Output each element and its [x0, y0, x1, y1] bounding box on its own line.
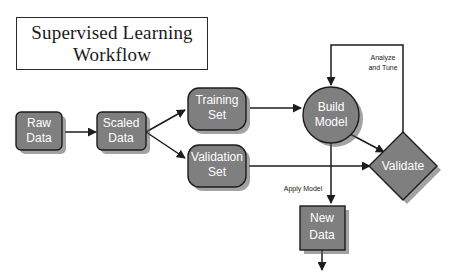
node-scaled-data-line-1: Scaled — [103, 116, 140, 130]
node-raw-data[interactable]: Raw Data — [16, 112, 66, 154]
node-training-set-line-2: Set — [208, 108, 227, 122]
edge-label-apply-model: Apply Model — [284, 185, 323, 193]
diagram-canvas: Supervised Learning Workflow Analyze and… — [0, 0, 452, 276]
node-new-data-line-1: New — [310, 211, 334, 225]
node-new-data-line-2: Data — [309, 228, 335, 242]
node-validation-set[interactable]: Validation Set — [188, 145, 250, 191]
edge-scaled-to-training — [146, 110, 185, 132]
node-training-set[interactable]: Training Set — [188, 88, 250, 134]
node-new-data[interactable]: New Data — [300, 206, 349, 254]
node-validate[interactable]: Validate — [369, 132, 441, 204]
node-validation-set-line-2: Set — [208, 165, 227, 179]
node-raw-data-line-1: Raw — [27, 116, 51, 130]
edge-label-analyze-tune-line-2: and Tune — [368, 64, 397, 71]
node-validation-set-line-1: Validation — [191, 150, 243, 164]
node-validate-label: Validate — [382, 159, 425, 173]
node-raw-data-line-2: Data — [26, 131, 52, 145]
node-build-model-line-1: Build — [318, 100, 345, 114]
node-scaled-data[interactable]: Scaled Data — [97, 112, 150, 154]
node-build-model-line-2: Model — [315, 115, 348, 129]
edge-label-analyze-tune-line-1: Analyze — [371, 54, 396, 62]
edge-scaled-to-validation — [146, 132, 185, 158]
workflow-flowchart: Analyze and Tune Apply Model Raw Data Sc… — [0, 0, 452, 276]
node-scaled-data-line-2: Data — [108, 131, 134, 145]
node-build-model[interactable]: Build Model — [303, 87, 363, 147]
node-training-set-line-1: Training — [196, 93, 239, 107]
